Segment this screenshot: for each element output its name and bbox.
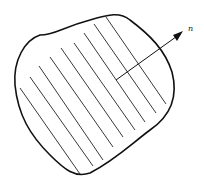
hatch-line bbox=[30, 77, 93, 166]
hatch-line bbox=[74, 43, 135, 130]
hatch-line bbox=[20, 88, 80, 174]
hatch-line bbox=[106, 17, 166, 104]
hatch-lines bbox=[20, 17, 166, 174]
hatch-line bbox=[94, 24, 156, 113]
hatch-line bbox=[39, 66, 103, 160]
surface-diagram: n bbox=[0, 0, 204, 193]
hatch-line bbox=[50, 57, 113, 147]
normal-vector-shaft bbox=[116, 34, 180, 80]
hatch-line bbox=[84, 33, 145, 122]
normal-vector-arrowhead bbox=[173, 31, 183, 41]
surface-outline bbox=[15, 15, 174, 175]
hatch-line bbox=[61, 48, 123, 137]
normal-label: n bbox=[188, 24, 193, 33]
